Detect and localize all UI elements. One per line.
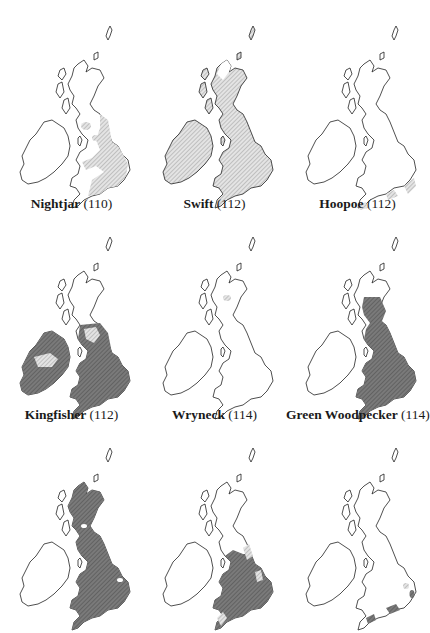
map-label: Green Woodpecker (114) <box>286 407 429 423</box>
map-swift: Swift (112) <box>143 0 286 211</box>
map-kingfisher: Kingfisher (112) <box>0 211 143 422</box>
british-isles-map <box>143 211 286 422</box>
british-isles-map <box>0 211 143 422</box>
british-isles-map <box>143 0 286 211</box>
distribution-shading <box>223 295 231 301</box>
distribution-shading <box>68 482 130 630</box>
british-isles-map <box>286 422 429 633</box>
british-isles-map <box>143 422 286 633</box>
british-isles-map <box>0 0 143 211</box>
distribution-shading <box>356 297 416 419</box>
map-row3-col1 <box>0 422 143 633</box>
map-label: Wryneck (114) <box>143 407 286 423</box>
distribution-shading <box>20 323 130 419</box>
map-label: Hoopoe (112) <box>286 196 429 212</box>
map-nightjar: Nightjar (110) <box>0 0 143 211</box>
british-isles-map <box>0 422 143 633</box>
map-row3-col3 <box>286 422 429 633</box>
map-grid: Nightjar (110) Swift (112) Hoopoe (112) <box>0 0 430 633</box>
british-isles-map <box>286 0 429 211</box>
british-isles-map <box>286 211 429 422</box>
map-label: Swift (112) <box>143 196 286 212</box>
map-label: Kingfisher (112) <box>0 407 143 423</box>
map-green-woodpecker: Green Woodpecker (114) <box>286 211 429 422</box>
map-row3-col2 <box>143 422 286 633</box>
map-hoopoe: Hoopoe (112) <box>286 0 429 211</box>
map-label: Nightjar (110) <box>0 196 143 212</box>
map-wryneck: Wryneck (114) <box>143 211 286 422</box>
